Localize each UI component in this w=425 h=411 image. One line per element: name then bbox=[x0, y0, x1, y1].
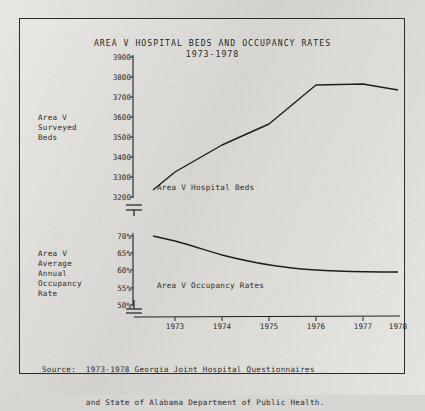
source-note: Source: 1973-1978 Georgia Joint Hospital… bbox=[42, 342, 325, 411]
occupancy-axis-break-icon bbox=[126, 300, 142, 313]
x-axis-baseline bbox=[134, 316, 400, 317]
source-line-1: Source: 1973-1978 Georgia Joint Hospital… bbox=[42, 364, 325, 375]
beds-series-line bbox=[153, 84, 398, 190]
occupancy-series-line bbox=[153, 236, 398, 272]
source-line-2: and State of Alabama Department of Publi… bbox=[42, 397, 325, 408]
beds-axis-break-icon bbox=[126, 205, 142, 216]
x-axis-ticks bbox=[175, 317, 363, 321]
